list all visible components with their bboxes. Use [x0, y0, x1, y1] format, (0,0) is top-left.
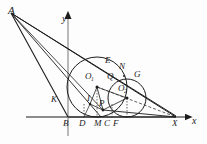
point-label-D: D [79, 119, 86, 128]
point-label-I: I [87, 94, 90, 103]
point-label-E: E [105, 56, 111, 65]
point-label-Q: Q [107, 72, 114, 81]
axis-label-y: y [62, 14, 66, 24]
point-label-O1: O1 [85, 72, 94, 81]
point-label-K: K [51, 95, 57, 104]
point-label-M: M [94, 119, 102, 128]
point-label-G: G [134, 70, 141, 79]
point-dot-N [123, 75, 125, 77]
point-label-O2-subscript: 2 [124, 88, 127, 94]
point-label-P: P [99, 99, 105, 108]
point-label-O1-subscript: 1 [91, 76, 94, 82]
point-dot-P [102, 109, 105, 112]
point-dot-I [89, 103, 91, 105]
geometry-figure: A y x E N G O1 Q O2 K I P B D M C F X [0, 0, 207, 144]
point-dot-O1 [96, 86, 99, 89]
segment-A-to-B [11, 13, 68, 117]
point-label-F: F [113, 119, 119, 128]
point-label-N: N [119, 62, 125, 71]
point-label-O2: O2 [118, 84, 127, 93]
point-label-C: C [104, 119, 110, 128]
point-label-X: X [172, 119, 178, 128]
segment-O2-to-P [103, 98, 127, 110]
segment-P-to-X [103, 110, 176, 117]
point-dot-O2 [126, 97, 129, 100]
segment-O1-to-I [90, 87, 97, 104]
point-label-A: A [8, 5, 15, 16]
axis-label-x: x [192, 116, 196, 126]
point-label-B: B [63, 119, 69, 128]
segment-group [11, 13, 176, 117]
